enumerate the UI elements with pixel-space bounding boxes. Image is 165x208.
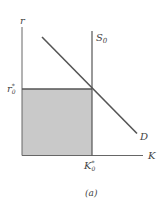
- supply-label: S0: [96, 32, 108, 45]
- equilibrium-rate-label: r*0: [7, 82, 16, 95]
- capital-market-diagram: r K S0 D r*0 K*0 (a): [0, 0, 165, 208]
- x-axis-label: K: [147, 150, 156, 161]
- figure-caption: (a): [85, 188, 98, 198]
- equilibrium-capital-label: K*0: [83, 159, 95, 172]
- income-area: [22, 89, 92, 155]
- demand-label: D: [139, 131, 148, 142]
- y-axis-label: r: [20, 15, 26, 26]
